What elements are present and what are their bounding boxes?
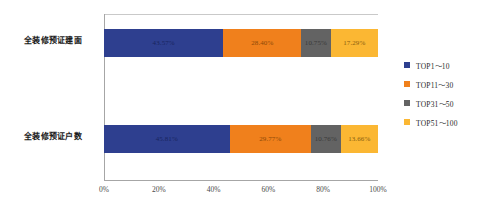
legend-swatch-icon-2 [404,100,410,106]
plot-top-border [104,14,378,15]
bar-segment-1-0: 45.81% [104,125,230,153]
legend-swatch-icon-0 [404,62,410,68]
bar-segment-0-1: 28.40% [223,29,301,57]
legend-item-1[interactable]: TOP11～30 [404,76,490,92]
legend-item-0[interactable]: TOP1～10 [404,57,490,73]
bar-value-label-0-1: 28.40% [251,39,273,47]
legend-item-2[interactable]: TOP31～50 [404,95,490,111]
legend-label-3: TOP51～100 [416,117,458,128]
bar-segment-0-0: 43.57% [104,29,223,57]
legend-item-3[interactable]: TOP51～100 [404,114,490,130]
bar-value-label-0-2: 10.75% [305,39,327,47]
x-axis-tick-labels: 0%20%40%60%80%100% [104,185,378,199]
legend-label-2: TOP31～50 [416,98,454,109]
bar-value-label-0-0: 43.57% [153,39,175,47]
x-tick-label-2: 40% [207,185,221,194]
x-tick-label-1: 20% [152,185,166,194]
legend-swatch-icon-1 [404,81,410,87]
chart-legend: TOP1～10TOP11～30TOP31～50TOP51～100 [404,57,490,133]
bar-value-label-1-0: 45.81% [156,135,178,143]
x-tick-label-3: 60% [262,185,276,194]
bar-segment-1-3: 13.66% [341,125,378,153]
bar-value-label-1-1: 29.77% [259,135,281,143]
plot-area: 43.57% 28.40% 10.75% 17.29% 45.81% 29.77… [104,14,378,181]
bar-value-label-0-3: 17.29% [343,39,365,47]
legend-label-0: TOP1～10 [416,60,450,71]
x-tick-label-4: 80% [316,185,330,194]
x-tick-label-5: 100% [369,185,387,194]
legend-swatch-icon-3 [404,119,410,125]
category-label-1: 全装修预证户数 [8,130,98,141]
bar-segment-1-1: 29.77% [230,125,312,153]
legend-label-1: TOP11～30 [416,79,453,90]
bar-segment-0-3: 17.29% [331,29,378,57]
bar-segment-0-2: 10.75% [301,29,330,57]
x-tick-label-0: 0% [99,185,109,194]
bar-row-1: 45.81% 29.77% 10.76% 13.66% [104,125,378,153]
bar-value-label-1-3: 13.66% [348,135,370,143]
bar-value-label-1-2: 10.76% [315,135,337,143]
stacked-bar-chart: 全装修预证建面 全装修预证户数 43.57% 28.40% 10.75% 17.… [0,0,492,217]
bar-segment-1-2: 10.76% [311,125,340,153]
category-label-0: 全装修预证建面 [8,34,98,45]
x-axis-line [104,180,378,181]
bar-row-0: 43.57% 28.40% 10.75% 17.29% [104,29,378,57]
